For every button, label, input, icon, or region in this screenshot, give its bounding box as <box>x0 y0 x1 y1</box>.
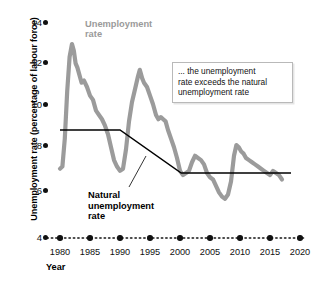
x-tick-dot-1985 <box>87 235 93 241</box>
x-tick-label-1990: 1990 <box>103 248 137 257</box>
x-tick-label-1980: 1980 <box>43 248 77 257</box>
x-tick-dot-2005 <box>207 235 213 241</box>
x-tick-label-2005: 2005 <box>193 248 227 257</box>
x-tick-dot-2010 <box>237 235 243 241</box>
x-tick-dot-2020 <box>297 235 303 241</box>
x-tick-label-2015: 2015 <box>253 248 287 257</box>
x-tick-label-2020: 2020 <box>283 248 314 257</box>
x-tick-dot-1980 <box>57 235 63 241</box>
x-tick-label-2010: 2010 <box>223 248 257 257</box>
x-axis-title: Year <box>46 262 65 272</box>
chart-figure: Unemployment rate (percentage of labour … <box>0 0 314 286</box>
x-tick-dot-2015 <box>267 235 273 241</box>
x-axis: 1980 1985 1990 1995 2000 2005 2010 2015 … <box>0 0 314 286</box>
x-tick-label-1995: 1995 <box>133 248 167 257</box>
x-tick-dot-1995 <box>147 235 153 241</box>
x-tick-dot-2000 <box>177 235 183 241</box>
x-tick-label-2000: 2000 <box>163 248 197 257</box>
x-tick-label-1985: 1985 <box>73 248 107 257</box>
x-tick-dot-1990 <box>117 235 123 241</box>
